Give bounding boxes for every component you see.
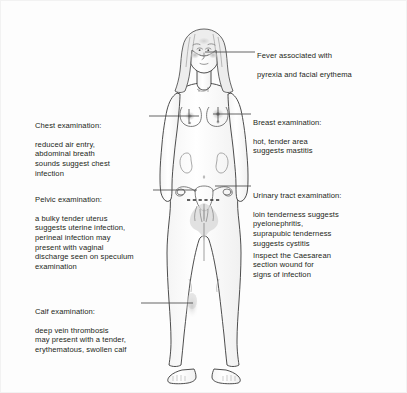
clinical-examination-diagram: Fever associated with pyrexia and facial… xyxy=(0,0,407,393)
annotation-breast-heading: Breast examination: xyxy=(253,118,403,128)
annotation-breast-body: hot, tender area suggests mastitis xyxy=(253,137,403,156)
calf-swelling-shading xyxy=(185,293,199,319)
annotation-chest-examination: Chest examination: reduced air entry, ab… xyxy=(35,111,151,188)
annotation-chest-body: reduced air entry, abdominal breath soun… xyxy=(35,140,151,178)
annotation-chest-heading: Chest examination: xyxy=(35,121,151,131)
annotation-calf-examination: Calf examination: deep vein thrombosis m… xyxy=(35,297,167,364)
knees xyxy=(189,279,219,292)
annotation-breast-examination: Breast examination: hot, tender area sug… xyxy=(253,108,403,166)
annotation-fever-heading: Fever associated with xyxy=(257,51,401,61)
annotation-caesarean-body: Inspect the Caesarean section wound for … xyxy=(253,251,403,280)
annotation-calf-body: deep vein thrombosis may present with a … xyxy=(35,326,167,355)
annotation-pelvic-examination: Pelvic examination: a bulky tender uteru… xyxy=(35,185,157,281)
annotation-calf-heading: Calf examination: xyxy=(35,307,167,317)
annotation-caesarean-wound: Inspect the Caesarean section wound for … xyxy=(253,241,403,289)
annotation-urinary-heading: Urinary tract examination: xyxy=(253,191,405,201)
annotation-fever-body: pyrexia and facial erythema xyxy=(257,70,401,80)
annotation-fever: Fever associated with pyrexia and facial… xyxy=(257,41,401,89)
annotation-pelvic-body: a bulky tender uterus suggests uterine i… xyxy=(35,214,157,272)
navel xyxy=(203,175,205,179)
annotation-pelvic-heading: Pelvic examination: xyxy=(35,195,157,205)
